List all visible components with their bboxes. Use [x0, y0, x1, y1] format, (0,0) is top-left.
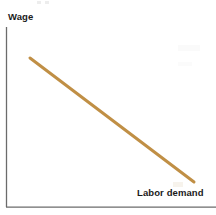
labor-demand-figure: Wage Labor demand — [0, 0, 216, 215]
y-axis-label: Wage — [8, 11, 33, 22]
labor-demand-curve-label: Labor demand — [137, 187, 204, 198]
labor-demand-curve — [30, 58, 194, 182]
plot-area — [0, 0, 216, 215]
